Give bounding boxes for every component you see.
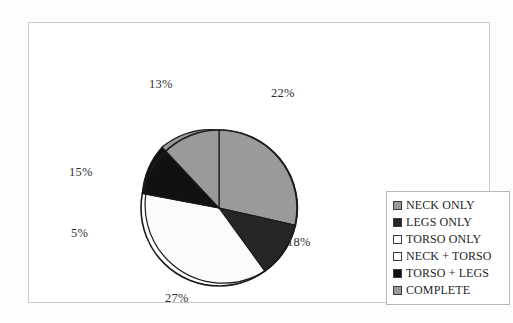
pie-label-neck-torso: 5% [71,226,88,241]
pie-svg [69,63,369,303]
pie-label-legs-only: 18% [287,235,311,250]
chart-legend: NECK ONLY LEGS ONLY TORSO ONLY NECK + TO… [386,191,510,305]
legend-swatch-complete-icon [393,286,402,295]
legend-label-legs-only: LEGS ONLY [406,215,472,230]
legend-swatch-torso-only-icon [393,235,402,244]
legend-item-neck-only[interactable]: NECK ONLY [393,197,505,214]
legend-label-torso-legs: TORSO + LEGS [406,266,489,281]
legend-label-neck-torso: NECK + TORSO [406,249,492,264]
pie-label-complete: 13% [149,77,173,92]
document-frame: 22% 18% 27% 5% 15% 13% NECK ONLY LEGS ON… [28,22,490,303]
legend-label-complete: COMPLETE [406,283,470,298]
scanned-page: 22% 18% 27% 5% 15% 13% NECK ONLY LEGS ON… [0,0,513,323]
legend-label-neck-only: NECK ONLY [406,198,475,213]
pie-label-neck-only: 22% [271,86,295,101]
pie-graphic: 22% 18% 27% 5% 15% 13% [69,63,369,303]
legend-label-torso-only: TORSO ONLY [406,232,481,247]
legend-item-legs-only[interactable]: LEGS ONLY [393,214,505,231]
legend-swatch-neck-torso-icon [393,252,402,261]
legend-swatch-torso-legs-icon [393,269,402,278]
legend-swatch-legs-only-icon [393,218,402,227]
pie-label-torso-legs: 15% [69,165,93,180]
legend-item-complete[interactable]: COMPLETE [393,282,505,299]
legend-item-neck-torso[interactable]: NECK + TORSO [393,248,505,265]
legend-item-torso-legs[interactable]: TORSO + LEGS [393,265,505,282]
legend-swatch-neck-only-icon [393,201,402,210]
pie-label-torso-only: 27% [165,291,189,306]
legend-item-torso-only[interactable]: TORSO ONLY [393,231,505,248]
pie-chart: 22% 18% 27% 5% 15% 13% [69,63,369,303]
